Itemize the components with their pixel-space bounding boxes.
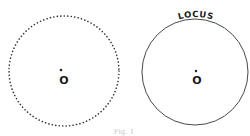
left-panel: O bbox=[9, 16, 119, 126]
figure-caption: Fig. 1 bbox=[114, 128, 134, 136]
locus-diagram: O O LOCUS Fig. 1 bbox=[0, 0, 250, 136]
right-panel: O LOCUS bbox=[142, 9, 248, 125]
dotted-circle bbox=[9, 16, 119, 126]
locus-label-path: LOCUS bbox=[177, 9, 215, 22]
point-dot bbox=[60, 69, 63, 72]
center-label-right: O bbox=[192, 74, 201, 87]
locus-label: LOCUS bbox=[177, 9, 215, 22]
locus-circle bbox=[142, 19, 248, 125]
point-dot bbox=[195, 70, 197, 72]
center-label-left: O bbox=[59, 74, 68, 87]
